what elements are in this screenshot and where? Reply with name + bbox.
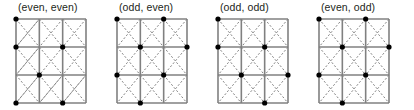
panel-label: (odd, odd)	[220, 1, 269, 13]
lattice-dot	[340, 100, 345, 105]
diagonal-lines	[16, 19, 86, 103]
lattice-svg	[319, 19, 389, 103]
lattice-svg	[218, 19, 288, 103]
lattice-svg	[117, 19, 187, 103]
diagonal-lines	[218, 19, 288, 103]
lattice-parity-figure: (even, even)(odd, even)(odd, odd)(even, …	[0, 0, 414, 110]
lattice-dot	[363, 16, 368, 21]
lattice-dot	[13, 100, 18, 105]
lattice-dot	[215, 44, 220, 49]
lattice-dot	[138, 44, 143, 49]
lattice-svg	[16, 19, 86, 103]
lattice-dot	[184, 44, 189, 49]
lattice-dot	[60, 44, 65, 49]
lattice-dot	[13, 44, 18, 49]
lattice-dot	[37, 72, 42, 77]
lattice-grid	[16, 19, 86, 103]
diagonal-lines	[117, 19, 187, 103]
lattice-dot	[340, 44, 345, 49]
lattice-dot	[316, 72, 321, 77]
lattice-dot	[363, 72, 368, 77]
diagonal-lines	[319, 19, 389, 103]
panel-label: (even, even)	[18, 1, 78, 13]
lattice-grid	[117, 19, 187, 103]
lattice-dot	[316, 16, 321, 21]
lattice-dot	[13, 16, 18, 21]
lattice-dot	[386, 44, 391, 49]
lattice-dot	[215, 16, 220, 21]
panel-even-odd: (even, odd)	[303, 0, 403, 110]
panel-label: (odd, even)	[119, 1, 173, 13]
lattice-dot	[239, 72, 244, 77]
panel-odd-odd: (odd, odd)	[202, 0, 302, 110]
lattice-dot	[114, 72, 119, 77]
lattice-dot	[161, 72, 166, 77]
lattice-grid	[218, 19, 288, 103]
lattice-dot	[60, 100, 65, 105]
lattice-dot	[138, 100, 143, 105]
panel-even-even: (even, even)	[0, 0, 100, 110]
lattice-dot	[285, 72, 290, 77]
lattice-dot	[262, 44, 267, 49]
lattice-grid	[319, 19, 389, 103]
lattice-dot	[262, 100, 267, 105]
lattice-dot	[114, 16, 119, 21]
panel-label: (even, odd)	[321, 1, 375, 13]
panel-odd-even: (odd, even)	[101, 0, 201, 110]
lattice-dot	[161, 16, 166, 21]
